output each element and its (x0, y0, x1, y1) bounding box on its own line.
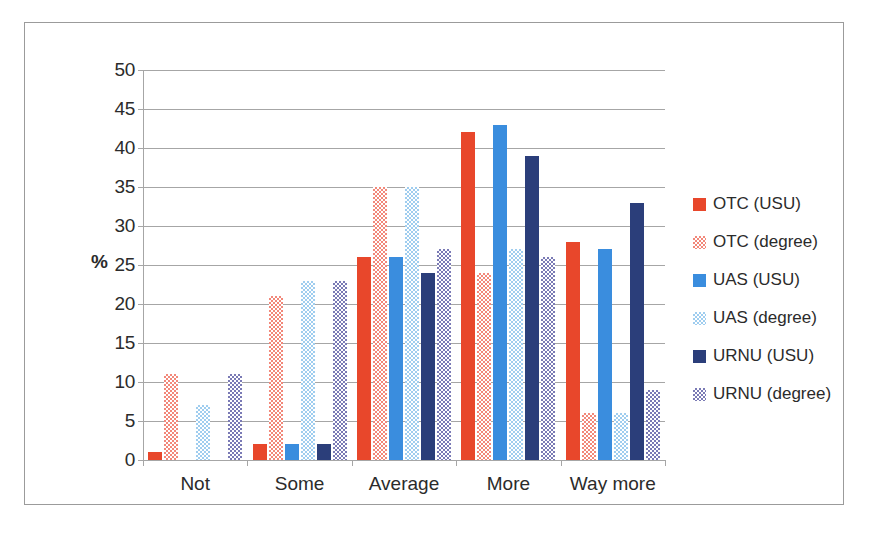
x-axis-tick (665, 460, 666, 466)
y-axis-tick-label: 30 (89, 216, 135, 235)
legend-label: URNU (degree) (713, 385, 831, 403)
y-axis-tick-label: 15 (89, 333, 135, 352)
bar (525, 156, 539, 460)
chart-frame: % 05101520253035404550 NotSomeAverageMor… (24, 22, 844, 505)
legend-swatch-icon (693, 274, 706, 287)
y-axis-tick-label: 5 (89, 411, 135, 430)
bar (437, 249, 451, 460)
legend-swatch-icon (693, 236, 706, 249)
bar (301, 281, 315, 460)
bar (421, 273, 435, 460)
bar-group (456, 70, 560, 460)
legend-label: OTC (degree) (713, 233, 818, 251)
bar-group (352, 70, 456, 460)
x-axis-tick (456, 460, 457, 466)
bar (228, 374, 242, 460)
y-axis-tick-label: 0 (89, 450, 135, 469)
bar-groups (143, 70, 665, 460)
y-axis-tick-label: 20 (89, 294, 135, 313)
legend-label: URNU (USU) (713, 347, 814, 365)
bar (389, 257, 403, 460)
bar-group (561, 70, 665, 460)
plot-area (143, 70, 665, 460)
bar (646, 390, 660, 460)
bar (566, 242, 580, 460)
bar (357, 257, 371, 460)
x-axis-category-label: Average (369, 473, 439, 495)
bar (630, 203, 644, 460)
x-axis-category-label: Some (275, 473, 325, 495)
legend-item[interactable]: UAS (USU) (693, 261, 873, 299)
chart-screenshot: % 05101520253035404550 NotSomeAverageMor… (0, 0, 873, 535)
legend-item[interactable]: OTC (degree) (693, 223, 873, 261)
x-axis-tick (352, 460, 353, 466)
x-axis-category-label: Not (180, 473, 210, 495)
y-axis-tick-label: 45 (89, 99, 135, 118)
legend-item[interactable]: URNU (USU) (693, 337, 873, 375)
y-axis-tick-label: 50 (89, 60, 135, 79)
x-axis-category-label: More (487, 473, 530, 495)
bar (253, 444, 267, 460)
bar (614, 413, 628, 460)
bar (373, 187, 387, 460)
legend-label: OTC (USU) (713, 195, 801, 213)
x-axis-tick (247, 460, 248, 466)
bar (405, 187, 419, 460)
legend-label: UAS (USU) (713, 271, 800, 289)
bar-group (143, 70, 247, 460)
legend-swatch-icon (693, 350, 706, 363)
legend-label: UAS (degree) (713, 309, 817, 327)
legend-item[interactable]: URNU (degree) (693, 375, 873, 413)
y-axis-tick-label: 40 (89, 138, 135, 157)
bar (333, 281, 347, 460)
x-axis-tick (561, 460, 562, 466)
legend-item[interactable]: UAS (degree) (693, 299, 873, 337)
bar (317, 444, 331, 460)
chart-legend: OTC (USU)OTC (degree)UAS (USU)UAS (degre… (693, 185, 873, 413)
legend-swatch-icon (693, 312, 706, 325)
bar (493, 125, 507, 460)
legend-swatch-icon (693, 388, 706, 401)
bar-group (247, 70, 351, 460)
bar (148, 452, 162, 460)
bar (509, 249, 523, 460)
y-axis-tick-label: 35 (89, 177, 135, 196)
x-axis-tick (143, 460, 144, 466)
bar (461, 132, 475, 460)
legend-item[interactable]: OTC (USU) (693, 185, 873, 223)
y-axis-tick-labels: 05101520253035404550 (87, 70, 135, 460)
x-axis-category-label: Way more (570, 473, 656, 495)
legend-swatch-icon (693, 198, 706, 211)
bar (269, 296, 283, 460)
y-axis-tick-label: 10 (89, 372, 135, 391)
bar (164, 374, 178, 460)
x-axis-category-labels: NotSomeAverageMoreWay more (143, 473, 665, 503)
bar (285, 444, 299, 460)
bar (541, 257, 555, 460)
bar (598, 249, 612, 460)
bar (582, 413, 596, 460)
gridline (143, 460, 665, 461)
bar (477, 273, 491, 460)
y-axis-tick-label: 25 (89, 255, 135, 274)
bar (196, 405, 210, 460)
